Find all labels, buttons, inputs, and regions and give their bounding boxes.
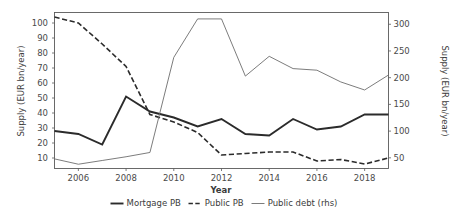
plot-frame <box>55 13 389 169</box>
y-tick-label-right: 300 <box>394 19 420 29</box>
x-tick-label: 2006 <box>58 173 98 183</box>
y-tick-label-right: 200 <box>394 73 420 83</box>
y-tick-label-left: 100 <box>22 18 48 28</box>
x-tick-label: 2014 <box>249 173 289 183</box>
legend-label: Mortgage PB <box>127 198 181 208</box>
legend-entry[interactable]: Public debt (rhs) <box>251 198 338 208</box>
y-tick-label-left: 60 <box>22 78 48 88</box>
y-tick-label-left: 90 <box>22 33 48 43</box>
y-tick-label-right: 250 <box>394 46 420 56</box>
x-tick-label: 2010 <box>154 173 194 183</box>
legend-swatch-icon <box>251 199 265 208</box>
y-tick-label-left: 50 <box>22 93 48 103</box>
x-tick-label: 2016 <box>297 173 337 183</box>
x-axis-title: Year <box>54 185 388 195</box>
x-tick-label: 2012 <box>202 173 242 183</box>
y-tick-label-left: 80 <box>22 48 48 58</box>
x-tick-label: 2018 <box>345 173 385 183</box>
y-axis-right-title: Supply (EUR bn/year) <box>440 21 450 161</box>
legend-swatch-icon <box>110 199 124 208</box>
y-tick-label-left: 40 <box>22 108 48 118</box>
y-tick-label-left: 30 <box>22 123 48 133</box>
legend-swatch-icon <box>188 199 202 208</box>
legend-label: Public debt (rhs) <box>268 198 338 208</box>
y-tick-label-right: 50 <box>394 153 420 163</box>
legend-label: Public PB <box>205 198 244 208</box>
y-tick-label-right: 100 <box>394 126 420 136</box>
legend-entry[interactable]: Public PB <box>188 198 244 208</box>
y-tick-label-right: 150 <box>394 99 420 109</box>
y-tick-label-left: 20 <box>22 138 48 148</box>
legend-entry[interactable]: Mortgage PB <box>110 198 181 208</box>
chart-legend: Mortgage PBPublic PBPublic debt (rhs) <box>0 198 447 208</box>
x-tick-label: 2008 <box>106 173 146 183</box>
y-tick-label-left: 10 <box>22 153 48 163</box>
y-tick-label-left: 70 <box>22 63 48 73</box>
